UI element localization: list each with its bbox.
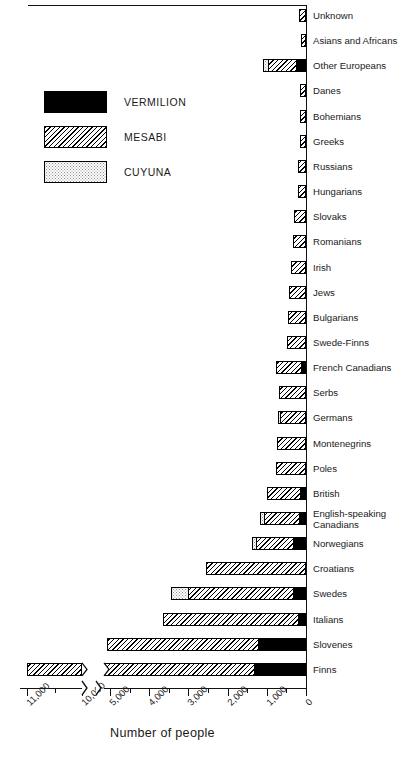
- axis-tick-label: 11,000: [24, 680, 52, 708]
- bar-segment-mesabi: [104, 663, 254, 676]
- axis-tick-minor: [55, 688, 56, 693]
- bar-row: [0, 160, 306, 173]
- bar-segment-vermilion: [258, 638, 306, 651]
- bar-segment-mesabi: [280, 411, 306, 424]
- category-label: Finns: [313, 664, 336, 675]
- category-label: French Canadians: [313, 362, 391, 373]
- bar-row: [0, 9, 306, 22]
- category-label: Danes: [313, 85, 341, 96]
- category-label: Other Europeans: [313, 60, 386, 71]
- bar-row: [0, 487, 306, 500]
- category-label: Swedes: [313, 588, 347, 599]
- category-label: Serbs: [313, 387, 338, 398]
- bar-row: [0, 638, 306, 651]
- category-label: Hungarians: [313, 186, 362, 197]
- bar-segment-mesabi: [279, 386, 306, 399]
- bar-row: [0, 34, 306, 47]
- bar-segment-mesabi-outlier: [27, 663, 82, 676]
- bar-segment-mesabi: [276, 361, 300, 374]
- category-label: Jews: [313, 287, 335, 298]
- value-axis-line: [306, 5, 307, 689]
- bar-segment-mesabi: [298, 160, 306, 173]
- bar-segment-mesabi: [256, 537, 294, 550]
- bar-row: [0, 235, 306, 248]
- category-label: Italians: [313, 614, 343, 625]
- bar-segment-mesabi: [300, 135, 306, 148]
- bar-row: [0, 411, 306, 424]
- bar-segment-vermilion: [293, 537, 306, 550]
- bar-segment-mesabi: [264, 512, 299, 525]
- bar-segment-mesabi: [267, 487, 300, 500]
- bar-segment-mesabi: [287, 336, 306, 349]
- bar-row: [0, 587, 306, 600]
- plot-area: UnknownAsians and AfricansOther European…: [0, 0, 405, 758]
- bar-row: [0, 437, 306, 450]
- category-label: Irish: [313, 262, 331, 273]
- bar-row: [0, 336, 306, 349]
- bar-segment-mesabi: [299, 9, 306, 22]
- category-label: Slovaks: [313, 211, 347, 222]
- category-label: Slovenes: [313, 639, 352, 650]
- category-label: Romanians: [313, 236, 362, 247]
- bar-row: [0, 361, 306, 374]
- bar-segment-cuyuna: [171, 587, 188, 600]
- bar-row: [0, 185, 306, 198]
- bar-segment-mesabi: [300, 84, 306, 97]
- bar-row: [0, 386, 306, 399]
- axis-tick-major: [306, 688, 307, 696]
- bar-row: [0, 537, 306, 550]
- category-label: Unknown: [313, 10, 353, 21]
- bar-segment-vermilion: [300, 487, 306, 500]
- bar-segment-mesabi: [188, 587, 293, 600]
- category-label: Croatians: [313, 563, 354, 574]
- bar-row: [0, 261, 306, 274]
- bar-row: [0, 59, 306, 72]
- category-label: British: [313, 488, 340, 499]
- bar-row: [0, 462, 306, 475]
- category-label: English-speakingCanadians: [313, 508, 386, 530]
- category-label: Poles: [313, 463, 337, 474]
- bar-segment-mesabi: [268, 59, 295, 72]
- bar-segment-mesabi: [288, 311, 306, 324]
- bar-row: [0, 286, 306, 299]
- category-label: Swede-Finns: [313, 337, 369, 348]
- bar-segment-mesabi: [294, 210, 306, 223]
- bar-row: [0, 210, 306, 223]
- bar-segment-vermilion: [296, 59, 306, 72]
- bar-segment-mesabi: [107, 638, 258, 651]
- bar-segment-mesabi: [300, 110, 306, 123]
- bar-row: [0, 613, 306, 626]
- category-label: Greeks: [313, 136, 344, 147]
- bar-segment-mesabi: [291, 261, 306, 274]
- bar-segment-mesabi: [301, 34, 306, 47]
- category-label: Montenegrins: [313, 438, 371, 449]
- bar-segment-mesabi: [289, 286, 306, 299]
- immigrant-population-bar-chart: VERMILION MESABI CUYUNA UnknownAsians an…: [0, 0, 405, 758]
- category-label: Asians and Africans: [313, 35, 397, 46]
- bar-segment-mesabi: [293, 235, 306, 248]
- bar-row-outlier-finns: [27, 663, 82, 676]
- bar-row: [0, 311, 306, 324]
- axis-title: Number of people: [110, 726, 215, 740]
- category-label: Bohemians: [313, 111, 361, 122]
- category-label: Bulgarians: [313, 312, 358, 323]
- axis-tick-label: 10,000: [79, 680, 107, 708]
- bar-row: [0, 84, 306, 97]
- category-label: Norwegians: [313, 538, 364, 549]
- bar-row: [0, 512, 306, 525]
- bar-segment-mesabi: [206, 562, 306, 575]
- axis-tick-label: 0: [303, 696, 314, 707]
- bar-segment-mesabi: [277, 437, 306, 450]
- bar-segment-vermilion: [299, 512, 306, 525]
- bar-segment-mesabi: [163, 613, 298, 626]
- bar-row: [0, 135, 306, 148]
- bar-segment-vermilion: [301, 361, 306, 374]
- bar-segment-mesabi: [298, 185, 306, 198]
- category-label: Russians: [313, 161, 352, 172]
- bar-segment-vermilion: [254, 663, 306, 676]
- category-label: Germans: [313, 412, 352, 423]
- bar-row: [0, 110, 306, 123]
- bar-segment-mesabi: [276, 462, 306, 475]
- bar-segment-vermilion: [298, 613, 306, 626]
- bar-row: [0, 562, 306, 575]
